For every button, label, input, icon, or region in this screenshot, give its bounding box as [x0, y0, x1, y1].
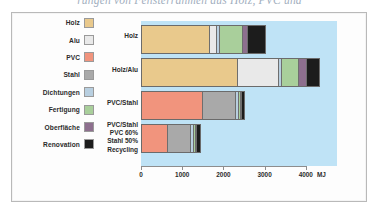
x-axis-unit-label: MJ — [317, 171, 326, 178]
legend-item[interactable]: Fertigung — [12, 101, 94, 118]
legend-swatch-alu — [84, 35, 94, 45]
x-axis-tick — [182, 166, 183, 170]
bar-category-label: PVC/Stahl — [107, 99, 138, 107]
legend-swatch-stahl — [84, 70, 94, 80]
x-axis-tick — [265, 166, 266, 170]
bar-category-label-line: PVC/Stahl — [107, 99, 138, 107]
legend-swatch-fertigung — [84, 105, 94, 115]
x-axis-tick — [306, 166, 307, 170]
bar-row[interactable] — [141, 25, 266, 54]
legend-item[interactable]: Holz — [12, 14, 94, 31]
bar-segment — [307, 59, 319, 86]
legend-item-label: Holz — [66, 19, 80, 26]
legend-item[interactable]: Oberfläche — [12, 118, 94, 135]
x-axis: MJ 01000200030004000 — [141, 166, 351, 190]
bar-segment — [142, 59, 238, 86]
bar-category-label-line: PVC/Stahl — [107, 121, 138, 129]
bar-segment — [197, 125, 200, 152]
bar-segment — [210, 26, 217, 53]
bar-segment — [203, 92, 236, 119]
legend-item[interactable]: Stahl — [12, 66, 94, 83]
x-axis-tick-label: 2000 — [216, 171, 230, 178]
legend-item-label: Oberfläche — [45, 124, 80, 131]
legend-swatch-renovation — [84, 139, 94, 149]
bar-segment — [142, 92, 203, 119]
bar-category-label-line: PVC 60% — [107, 129, 138, 137]
legend-swatch-holz — [84, 18, 94, 28]
cropped-caption-text: rungen von Fensterrahmen aus Holz, PVC u… — [0, 0, 379, 8]
bar-category-label: PVC/StahlPVC 60%Stahl 50%Recycling — [107, 121, 138, 154]
bar-category-labels: HolzHolz/AluPVC/StahlPVC/StahlPVC 60%Sta… — [96, 21, 138, 166]
legend-item[interactable]: Dichtungen — [12, 84, 94, 101]
bar-category-label-line: Holz — [124, 32, 138, 40]
x-axis-tick-label: 3000 — [257, 171, 271, 178]
bar-row[interactable] — [141, 91, 245, 120]
x-axis-tick-label: 0 — [139, 171, 143, 178]
legend-swatch-oberflaeche — [84, 122, 94, 132]
legend-item-label: Dichtungen — [43, 89, 80, 96]
legend-item[interactable]: Renovation — [12, 136, 94, 153]
bar-segment — [242, 92, 244, 119]
bar-segment — [142, 125, 168, 152]
bar-segment — [142, 26, 210, 53]
chart-legend: HolzAluPVCStahlDichtungenFertigungOberfl… — [12, 14, 94, 153]
x-axis-tick-label: 1000 — [175, 171, 189, 178]
legend-item-label: Fertigung — [49, 106, 80, 113]
bar-category-label: Holz/Alu — [112, 66, 138, 74]
legend-item-label: PVC — [66, 54, 80, 61]
bar-segment — [282, 59, 299, 86]
legend-item-label: Alu — [69, 37, 80, 44]
x-axis-tick — [223, 166, 224, 170]
bar-category-label-line: Stahl 50% — [107, 137, 138, 145]
bar-segment — [220, 26, 243, 53]
legend-swatch-dichtungen — [84, 87, 94, 97]
bar-segment — [168, 125, 191, 152]
bar-category-label: Holz — [124, 32, 138, 40]
bar-category-label-line: Recycling — [107, 146, 138, 154]
legend-swatch-pvc — [84, 52, 94, 62]
bar-row[interactable] — [141, 124, 201, 153]
bar-row[interactable] — [141, 58, 320, 87]
x-axis-tick — [141, 166, 142, 170]
bar-segment — [248, 26, 265, 53]
legend-item[interactable]: PVC — [12, 49, 94, 66]
bar-category-label-line: Holz/Alu — [112, 66, 138, 74]
legend-item[interactable]: Alu — [12, 31, 94, 48]
legend-item-label: Renovation — [43, 141, 80, 148]
stacked-bars — [141, 21, 351, 166]
legend-item-label: Stahl — [63, 71, 80, 78]
bar-segment — [238, 59, 279, 86]
x-axis-tick-label: 4000 — [299, 171, 313, 178]
bar-segment — [299, 59, 307, 86]
